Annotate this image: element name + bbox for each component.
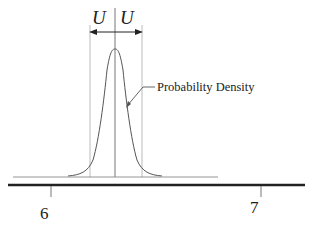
- probability-density-label: Probability Density: [157, 80, 255, 94]
- u-label-right: U: [120, 7, 135, 28]
- uncertainty-diagram: U U Probability Density 6 7: [0, 0, 312, 230]
- uncertainty-arrow: [89, 29, 143, 35]
- tick-label-6: 6: [40, 204, 49, 223]
- tick-label-7: 7: [250, 198, 259, 217]
- label-leader-line: [127, 87, 155, 106]
- u-label-left: U: [92, 7, 107, 28]
